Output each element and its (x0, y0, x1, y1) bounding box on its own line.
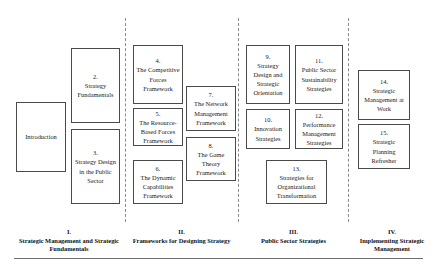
section-divider-3 (348, 18, 349, 222)
section-label-3: III. Public Sector Strategies (242, 228, 345, 245)
chapter-number: 9. (266, 52, 271, 61)
chapter-box-10[interactable]: 10. Innovation Strategies (246, 109, 290, 149)
chapter-number: 5. (156, 109, 161, 118)
chapter-title: The Competitive Forces Framework (136, 65, 180, 92)
section-numeral: III. (242, 228, 345, 237)
section-divider-2 (238, 18, 239, 222)
chapter-title: Strategic Planning Refresher (361, 137, 407, 164)
chapter-box-14[interactable]: 14. Strategic Management at Work (358, 70, 410, 120)
chapter-title: Strategic Management at Work (361, 86, 407, 113)
chapter-title: The Resource-Based Forces Framework (136, 118, 180, 145)
section-divider-1 (125, 18, 126, 222)
chapter-number: 4. (156, 56, 161, 65)
section-name: Frameworks for Designing Strategy (131, 237, 232, 246)
chapter-title: Strategy Design in the Public Sector (74, 157, 117, 184)
chapter-title: Strategies for Organizational Transforma… (269, 173, 324, 200)
chapter-title: Performance Management Strategies (298, 120, 340, 147)
chapter-title: Strategy Fundamentals (74, 81, 117, 99)
section-name: Strategic Management and Strategic Funda… (14, 237, 124, 254)
footer-rule (14, 258, 423, 259)
chapter-box-3[interactable]: 3. Strategy Design in the Public Sector (71, 129, 120, 204)
chapter-box-2[interactable]: 2. Strategy Fundamentals (71, 48, 120, 123)
chapter-box-8[interactable]: 8. The Game Theory Framework (186, 137, 236, 181)
section-label-2: II. Frameworks for Designing Strategy (131, 228, 232, 245)
chapter-box-5[interactable]: 5. The Resource-Based Forces Framework (133, 108, 183, 146)
chapter-number: 10. (264, 115, 272, 124)
chapter-title: Innovation Strategies (249, 124, 287, 142)
chapter-title: The Dynamic Capabilities Framework (136, 173, 180, 200)
chapter-number: 15. (380, 128, 388, 137)
chapter-box-15[interactable]: 15. Strategic Planning Refresher (358, 124, 410, 169)
book-structure-diagram: Introduction 2. Strategy Fundamentals 3.… (0, 0, 437, 269)
chapter-box-9[interactable]: 9. Strategy Design and Strategic Orienta… (246, 45, 290, 104)
chapter-number: 2. (93, 72, 98, 81)
chapter-box-7[interactable]: 7. The Network Management Framework (186, 86, 236, 131)
chapter-number: 12. (315, 111, 323, 120)
chapter-number: 13. (293, 164, 301, 173)
chapter-title: The Game Theory Framework (189, 150, 233, 177)
chapter-number: 14. (380, 77, 388, 86)
chapter-box-13[interactable]: 13. Strategies for Organizational Transf… (266, 160, 327, 204)
section-numeral: IV. (352, 228, 432, 237)
chapter-title: Introduction (25, 132, 57, 141)
chapter-box-6[interactable]: 6. The Dynamic Capabilities Framework (133, 160, 183, 204)
section-name: Public Sector Strategies (242, 237, 345, 246)
chapter-number: 11. (315, 56, 323, 65)
chapter-box-11[interactable]: 11. Public Sector Sustainability Strateg… (295, 45, 343, 104)
chapter-number: 7. (209, 90, 214, 99)
section-numeral: I. (14, 228, 124, 237)
chapter-number: 8. (209, 141, 214, 150)
section-numeral: II. (131, 228, 232, 237)
chapter-box-12[interactable]: 12. Performance Management Strategies (295, 109, 343, 149)
chapter-title: Strategy Design and Strategic Orientatio… (249, 61, 287, 97)
chapter-number: 3. (93, 148, 98, 157)
section-name: Implementing Strategic Management (352, 237, 432, 254)
chapter-number: 6. (156, 164, 161, 173)
section-label-4: IV. Implementing Strategic Management (352, 228, 432, 254)
chapter-box-4[interactable]: 4. The Competitive Forces Framework (133, 45, 183, 104)
section-label-1: I. Strategic Management and Strategic Fu… (14, 228, 124, 254)
chapter-title: Public Sector Sustainability Strategies (298, 65, 340, 92)
chapter-box-introduction[interactable]: Introduction (16, 102, 66, 172)
chapter-title: The Network Management Framework (189, 99, 233, 126)
